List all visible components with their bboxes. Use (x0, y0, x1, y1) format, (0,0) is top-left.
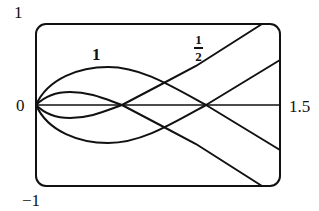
y-tick-top: 1 (14, 4, 23, 21)
y-tick-bottom: −1 (22, 192, 40, 209)
curve-label-half: 1 2 (194, 33, 203, 63)
curve-label-1: 1 (92, 46, 101, 63)
curve-half-upper (36, 92, 262, 186)
chart-plot (0, 0, 319, 211)
fraction-denominator: 2 (195, 50, 202, 63)
curve-half-lower (36, 24, 262, 118)
fraction-numerator: 1 (195, 33, 202, 46)
y-tick-zero: 0 (16, 97, 25, 114)
x-tick-right: 1.5 (289, 98, 310, 115)
